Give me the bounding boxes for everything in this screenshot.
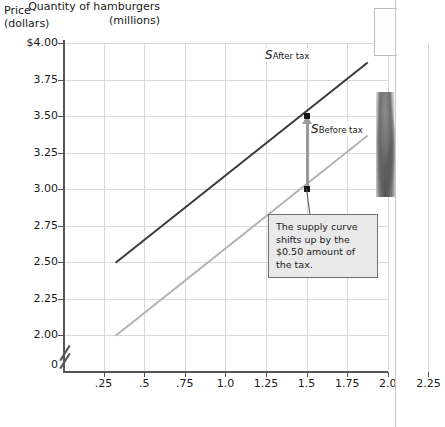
y-axis-tick-mark: [58, 299, 64, 300]
y-axis-tick-label: 3.00: [6, 182, 58, 195]
y-axis-tick-label: 3.25: [6, 146, 58, 159]
x-axis-tick-label: 1.5: [287, 377, 327, 390]
gridline-vertical: [428, 43, 429, 372]
curve-label-symbol: S: [311, 122, 319, 136]
x-axis-tick-label: 1.0: [205, 377, 245, 390]
y-axis-tick-mark: [58, 189, 64, 190]
gridline-vertical: [144, 43, 145, 372]
x-axis-tick-label: .5: [124, 377, 164, 390]
curve-label-subscript: After tax: [273, 51, 310, 61]
y-axis-line: [63, 40, 65, 372]
y-axis-tick-label: $4.00: [6, 36, 58, 49]
right-edge-photo: [376, 92, 396, 197]
x-axis-tick-label: 2.25: [408, 377, 445, 390]
gridline-vertical: [104, 43, 105, 372]
right-panel-box: [374, 8, 397, 56]
x-axis-tick-label: 2.0: [368, 377, 408, 390]
y-axis-tick-mark: [58, 262, 64, 263]
gridline-vertical: [266, 43, 267, 372]
tax-shift-arrow-shaft: [306, 122, 309, 189]
x-axis-tick-label: .25: [84, 377, 124, 390]
y-axis-tick-mark: [58, 43, 64, 44]
x-axis-tick-label: 1.75: [327, 377, 367, 390]
y-axis-tick-mark: [58, 226, 64, 227]
x-axis-tick-label: 1.25: [246, 377, 286, 390]
gridline-vertical: [307, 43, 308, 372]
gridline-vertical: [347, 43, 348, 372]
y-axis-tick-mark: [58, 153, 64, 154]
y-axis-tick-mark: [58, 116, 64, 117]
y-axis-tick-label: 2.00: [6, 328, 58, 341]
y-axis-tick-label: 2.50: [6, 255, 58, 268]
y-axis-tick-label: 3.75: [6, 73, 58, 86]
callout-box: The supply curve shifts up by the $0.50 …: [268, 214, 378, 278]
curve-label-after-tax: SAfter tax: [264, 48, 310, 62]
y-axis-tick-mark: [58, 80, 64, 81]
x-axis-tick-label: .75: [165, 377, 205, 390]
y-axis-tick-label: 2.75: [6, 219, 58, 232]
y-axis-tick-label: 2.25: [6, 292, 58, 305]
point-marker: [304, 113, 310, 119]
right-panel-border: [395, 0, 396, 427]
curve-label-symbol: S: [265, 48, 273, 62]
y-axis-tick-mark: [58, 335, 64, 336]
gridline-vertical: [225, 43, 226, 372]
y-axis-tick-label: 3.50: [6, 109, 58, 122]
axis-origin-label: 0: [30, 358, 58, 371]
curve-label-before-tax: SBefore tax: [310, 122, 364, 136]
curve-label-subscript: Before tax: [319, 125, 363, 135]
